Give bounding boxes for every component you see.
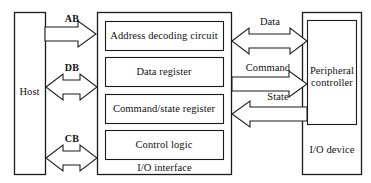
cb-bus-label: CB [50,133,94,144]
db-arrow [46,74,97,100]
ab-bus-label: AB [50,13,94,24]
peripheral-controller-label-line1: Peripheral [307,65,357,77]
ab-arrow [45,21,96,47]
io-device-label: I/O device [303,144,361,156]
state-signal-label: State [254,91,302,103]
command-signal-label: Command [232,62,304,74]
address-decoding-circuit-label: Address decoding circuit [105,30,223,42]
cb-arrow [46,145,97,171]
peripheral-controller-label-line2: controller [307,77,357,89]
diagram-canvas: Host Address decoding circuit Data regis… [0,0,371,183]
host-label: Host [14,86,45,98]
state-arrow [232,101,307,127]
command-state-register-label: Command/state register [105,103,223,115]
io-interface-label: I/O interface [98,162,231,174]
db-bus-label: DB [50,62,94,73]
control-logic-label: Control logic [105,139,223,151]
data-signal-label: Data [245,16,295,28]
data-register-label: Data register [105,66,223,78]
data-arrow [232,28,307,54]
